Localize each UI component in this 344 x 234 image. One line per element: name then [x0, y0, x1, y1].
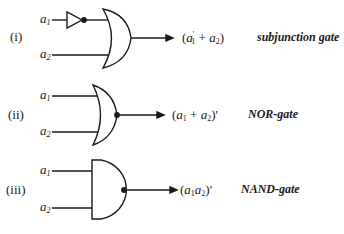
gate-name-subjunction: subjunction gate [257, 31, 339, 43]
input-label-a2: a2 [40, 124, 51, 139]
gate-name-nor: NOR-gate [248, 108, 298, 120]
input-label-a1: a1 [40, 163, 51, 178]
output-expression-i: (a'1 + a2) [182, 31, 224, 46]
output-expression-iii: (a1a2)' [180, 183, 212, 198]
row-number-i: (i) [10, 30, 22, 43]
input-label-a2: a2 [40, 200, 51, 215]
arrow-head-icon [157, 112, 164, 118]
row-number-ii: (ii) [8, 108, 24, 121]
input-label-a1: a1 [40, 88, 51, 103]
inversion-bubble [82, 18, 86, 22]
inverter-triangle [67, 12, 82, 28]
nor-gate-shape [93, 85, 117, 145]
input-label-a2: a2 [40, 47, 51, 62]
inversion-bubble [122, 188, 126, 192]
or-gate-shape [103, 9, 131, 68]
nand-gate-figure [52, 160, 177, 219]
arrow-head-icon [170, 187, 177, 193]
arrow-head-icon [166, 35, 173, 41]
nor-gate-figure [52, 85, 164, 145]
subjunction-gate-figure [52, 9, 173, 68]
output-expression-ii: (a1 + a2)' [172, 108, 218, 123]
input-label-a1: a1 [40, 12, 51, 27]
gate-name-nand: NAND-gate [241, 183, 300, 195]
inversion-bubble [115, 113, 119, 117]
row-number-iii: (iii) [6, 183, 26, 196]
